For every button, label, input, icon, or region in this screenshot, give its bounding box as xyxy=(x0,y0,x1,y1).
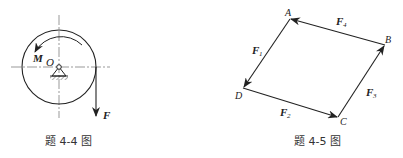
svg-text:4: 4 xyxy=(343,21,347,29)
figure-canvas: M O F 题 4-4 图 A B C D F 1 F 2 F 3 F 4 xyxy=(0,0,403,158)
label-f3: F 3 xyxy=(365,86,377,100)
force-f3-arrow xyxy=(338,46,384,117)
force-f1-arrow xyxy=(244,19,290,87)
label-o: O xyxy=(46,56,54,68)
label-f4: F 4 xyxy=(335,15,347,29)
point-b: B xyxy=(385,34,391,45)
figure-4-4: M O F 题 4-4 图 xyxy=(11,15,111,148)
svg-text:2: 2 xyxy=(287,112,291,120)
caption-4-5: 题 4-5 图 xyxy=(294,135,341,148)
point-c: C xyxy=(340,116,347,127)
moment-arrow xyxy=(35,37,82,52)
label-f2: F 2 xyxy=(279,106,291,120)
svg-text:1: 1 xyxy=(259,50,263,58)
label-f: F xyxy=(102,109,111,121)
caption-4-4: 题 4-4 图 xyxy=(45,135,92,148)
label-f1: F 1 xyxy=(251,44,263,58)
figure-4-5: A B C D F 1 F 2 F 3 F 4 题 4-5 图 xyxy=(234,7,391,148)
point-d: D xyxy=(234,90,243,101)
svg-text:3: 3 xyxy=(372,92,377,100)
point-a: A xyxy=(284,7,292,18)
label-m: M xyxy=(32,52,44,64)
